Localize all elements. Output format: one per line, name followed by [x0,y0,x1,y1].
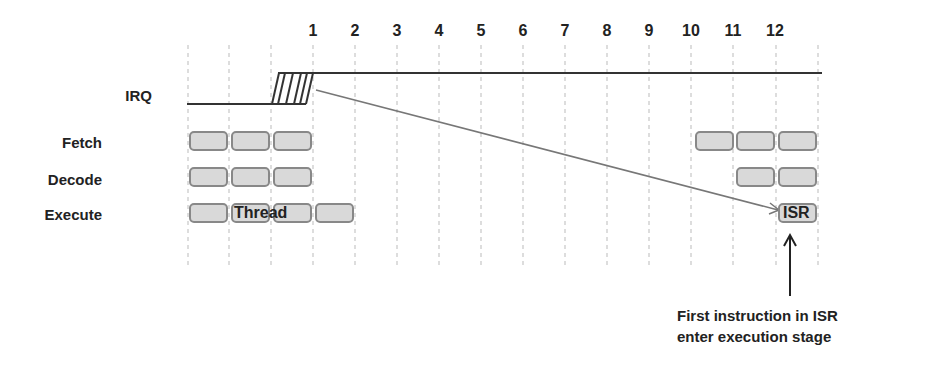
cycle-number: 1 [298,22,328,40]
decode-box [778,167,817,187]
annotation-arrow [784,235,796,296]
isr-label: ISR [783,204,810,222]
decode-box [231,167,270,187]
cycle-number: 11 [718,22,748,40]
fetch-box [695,131,734,151]
cycle-number: 3 [382,22,412,40]
row-label-decode: Decode [2,171,102,188]
row-label-fetch: Fetch [2,134,102,151]
execute-box [189,203,228,223]
cycle-number: 7 [550,22,580,40]
annotation-line-2: enter execution stage [677,326,831,347]
fetch-box [231,131,270,151]
thread-label: Thread [234,204,287,222]
execute-box [315,203,354,223]
fetch-box [273,131,312,151]
cycle-number: 5 [466,22,496,40]
decode-box [189,167,228,187]
cycle-number: 2 [340,22,370,40]
decode-box [736,167,775,187]
latency-arrow [316,90,779,214]
row-label-irq: IRQ [52,87,152,104]
row-label-execute: Execute [2,206,102,223]
cycle-number: 12 [760,22,790,40]
cycle-number: 6 [508,22,538,40]
cycle-number: 9 [634,22,664,40]
irq-signal [187,73,822,104]
cycle-number: 10 [676,22,706,40]
fetch-box [736,131,775,151]
fetch-box [778,131,817,151]
fetch-box [189,131,228,151]
cycle-number: 8 [592,22,622,40]
annotation-line-1: First instruction in ISR [677,305,838,326]
decode-box [273,167,312,187]
cycle-number: 4 [424,22,454,40]
